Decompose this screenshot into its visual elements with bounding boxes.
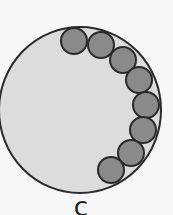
small-circle — [88, 32, 114, 58]
small-circle — [133, 92, 159, 118]
small-circle — [126, 67, 152, 93]
panel-label: c — [66, 194, 96, 215]
small-circle — [98, 157, 124, 183]
small-circle — [130, 117, 156, 143]
circle-packing-diagram — [0, 0, 173, 215]
small-circle — [61, 28, 87, 54]
